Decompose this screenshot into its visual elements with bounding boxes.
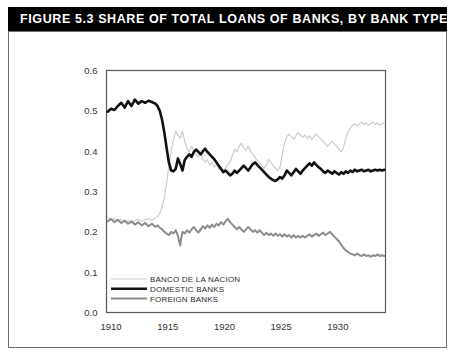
y-axis-tick-label: 0.5 <box>84 105 97 116</box>
x-axis-tick-label: 1930 <box>327 321 348 332</box>
x-axis-tick-label: 1920 <box>214 321 235 332</box>
y-axis-tick-label: 0.1 <box>84 267 97 278</box>
chart-svg: 0.00.10.20.30.40.50.61910191519201925193… <box>0 0 455 363</box>
plot-frame <box>107 71 386 313</box>
figure-container: FIGURE 5.3 SHARE OF TOTAL LOANS OF BANKS… <box>0 0 455 363</box>
y-axis-tick-label: 0.4 <box>84 146 97 157</box>
legend-label: DOMESTIC BANKS <box>150 285 224 294</box>
legend-label: BANCO DE LA NACION <box>150 275 240 284</box>
x-axis-tick-label: 1915 <box>157 321 178 332</box>
x-axis-tick-label: 1925 <box>271 321 292 332</box>
y-axis-tick-label: 0.3 <box>84 186 97 197</box>
series-line <box>108 219 385 257</box>
y-axis-tick-label: 0.6 <box>84 65 97 76</box>
legend-label: FOREIGN BANKS <box>150 295 218 304</box>
chart-plot-area: 0.00.10.20.30.40.50.61910191519201925193… <box>0 0 455 363</box>
y-axis-tick-label: 0.0 <box>84 307 97 318</box>
series-line <box>108 100 385 181</box>
x-axis-tick-label: 1910 <box>100 321 121 332</box>
y-axis-tick-label: 0.2 <box>84 226 97 237</box>
